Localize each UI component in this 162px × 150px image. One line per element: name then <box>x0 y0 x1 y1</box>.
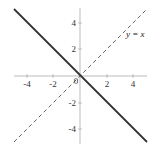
x-tick-label: 4 <box>131 79 136 89</box>
x-tick-label: -4 <box>23 79 31 89</box>
x-tick-label: 0 <box>74 76 79 86</box>
line-chart: -4 -2 0 2 4 4 2 -2 -4 y = x <box>0 0 162 150</box>
y-tick-label: 2 <box>72 44 77 54</box>
x-tick-label: -2 <box>49 79 57 89</box>
y-tick-label: -4 <box>69 124 77 134</box>
y-tick-label: -2 <box>69 98 77 108</box>
y-tick-label: 4 <box>72 18 77 28</box>
x-tick-label: 2 <box>105 79 110 89</box>
series-annotation: y = x <box>125 29 145 39</box>
